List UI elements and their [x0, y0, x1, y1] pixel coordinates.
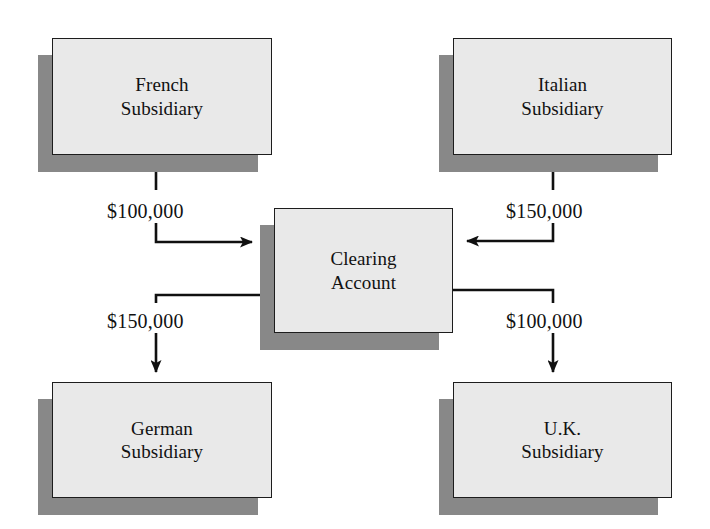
edge-clearing-to-german [156, 295, 260, 372]
node-french-subsidiary[interactable]: French Subsidiary [52, 38, 272, 155]
node-german-subsidiary-label: German Subsidiary [121, 417, 203, 463]
edge-label-french-to-clearing: $100,000 [104, 200, 187, 223]
node-italian-subsidiary-label: Italian Subsidiary [521, 73, 603, 119]
edge-label-clearing-to-german: $150,000 [104, 310, 187, 333]
node-clearing-account-label: Clearing Account [330, 247, 396, 293]
node-clearing-account[interactable]: Clearing Account [274, 208, 453, 333]
node-german-subsidiary[interactable]: German Subsidiary [52, 382, 272, 498]
node-french-subsidiary-label: French Subsidiary [121, 73, 203, 119]
node-uk-subsidiary-label: U.K. Subsidiary [521, 417, 603, 463]
edge-label-italian-to-clearing: $150,000 [503, 200, 586, 223]
clearing-account-diagram: French Subsidiary Italian Subsidiary Cle… [0, 0, 710, 529]
edge-label-clearing-to-uk: $100,000 [503, 310, 586, 333]
node-italian-subsidiary[interactable]: Italian Subsidiary [453, 38, 672, 155]
node-uk-subsidiary[interactable]: U.K. Subsidiary [453, 382, 672, 498]
